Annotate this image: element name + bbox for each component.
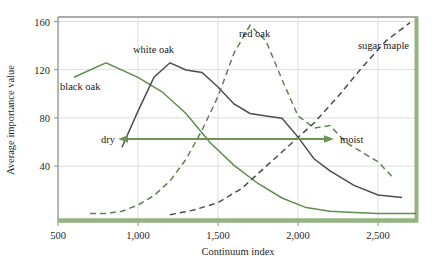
x-tick-2500: 2,500 xyxy=(366,230,390,241)
chart-figure: 160 120 80 40 500 1,000 1,500 2,000 2,50… xyxy=(0,0,444,262)
series-label-red-oak: red oak xyxy=(239,28,271,39)
series-label-sugar-maple: sugar maple xyxy=(358,40,409,51)
x-tick-1000: 1,000 xyxy=(126,230,150,241)
arrow-label-dry: dry xyxy=(101,134,116,145)
y-tick-120: 120 xyxy=(34,65,50,76)
series-label-white-oak: white oak xyxy=(133,44,175,55)
series-label-black-oak: black oak xyxy=(60,81,101,92)
y-axis-title: Average importance value xyxy=(5,65,16,175)
x-axis-title: Continuum index xyxy=(201,246,275,257)
y-tick-160: 160 xyxy=(34,17,50,28)
x-tick-1500: 1,500 xyxy=(206,230,230,241)
arrow-label-moist: moist xyxy=(340,134,363,145)
x-tick-2000: 2,000 xyxy=(286,230,310,241)
x-tick-500: 500 xyxy=(50,230,66,241)
y-tick-40: 40 xyxy=(40,161,51,172)
chart-svg: 160 120 80 40 500 1,000 1,500 2,000 2,50… xyxy=(0,0,444,262)
y-tick-80: 80 xyxy=(40,113,51,124)
